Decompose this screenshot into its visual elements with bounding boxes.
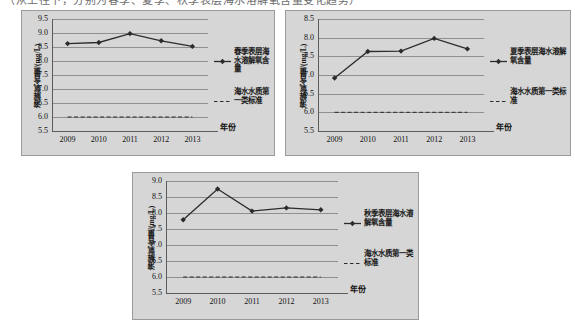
legend-marker-glyph [490, 98, 507, 105]
summer-chart-legend-dashed-icon [490, 91, 507, 98]
summer-chart-legend-line-icon [490, 51, 507, 58]
summer-chart-data-line [335, 38, 468, 78]
legend-marker-glyph [344, 260, 361, 267]
legend-marker-glyph [214, 58, 231, 65]
autumn-chart-panel: 溶解氧含量/(mg/L)9.08.58.07.57.06.56.05.52009… [132, 172, 419, 320]
spring-chart-data-marker [190, 44, 195, 49]
spring-chart-data-marker [127, 31, 132, 36]
cut-off-caption-strip: （从上往下，分别为春季、夏季、秋季表层海水溶解氧含量变化趋势） [0, 0, 575, 9]
autumn-chart-legend-label: 海水水质第一类标准 [364, 250, 416, 267]
autumn-chart-data-marker [284, 205, 289, 210]
summer-chart-data-marker [465, 46, 470, 51]
legend-marker-glyph [344, 220, 361, 227]
summer-chart-legend-item: 夏季表层海水溶解氧含量 [490, 48, 568, 70]
summer-chart-panel: 溶解氧含量/(mg/L)8.58.07.57.06.56.05.52009201… [285, 10, 571, 156]
autumn-chart-legend-label: 秋季表层海水溶解氧含量 [364, 210, 416, 227]
spring-chart-data-marker [96, 40, 101, 45]
spring-chart-legend-label: 海水水质第一类标准 [234, 88, 272, 105]
autumn-chart-legend-item: 海水水质第一类标准 [344, 250, 416, 272]
spring-chart-legend-line-icon [214, 51, 231, 58]
autumn-chart-legend: 秋季表层海水溶解氧含量海水水质第一类标准 [344, 181, 416, 293]
spring-chart-plot: 溶解氧含量/(mg/L)9.59.08.58.07.57.06.56.05.52… [22, 11, 274, 155]
summer-chart-legend-item: 海水水质第一类标准 [490, 88, 568, 110]
spring-chart-data-marker [159, 38, 164, 43]
legend-marker-glyph [214, 98, 231, 105]
spring-chart-legend-dashed-icon [214, 91, 231, 98]
summer-chart-data-marker [398, 48, 403, 53]
summer-chart-legend-label: 海水水质第一类标准 [510, 88, 568, 105]
spring-chart-legend-item: 春季表层海水溶解氧含量 [214, 48, 272, 70]
legend-marker-glyph [490, 58, 507, 65]
summer-chart-legend-label: 夏季表层海水溶解氧含量 [510, 48, 568, 65]
spring-chart-legend-item: 海水水质第一类标准 [214, 88, 272, 110]
spring-chart-legend-label: 春季表层海水溶解氧含量 [234, 48, 272, 74]
autumn-chart-legend-dashed-icon [344, 253, 361, 260]
spring-chart-data-marker [65, 41, 70, 46]
cut-off-caption: （从上往下，分别为春季、夏季、秋季表层海水溶解氧含量变化趋势） [4, 0, 361, 7]
autumn-chart-data-marker [318, 207, 323, 212]
autumn-chart-data-line [183, 189, 321, 220]
autumn-chart-legend-line-icon [344, 213, 361, 220]
summer-chart-legend: 夏季表层海水溶解氧含量海水水质第一类标准 [490, 19, 568, 131]
spring-chart-panel: 溶解氧含量/(mg/L)9.59.08.58.07.57.06.56.05.52… [21, 10, 275, 156]
spring-chart-legend: 春季表层海水溶解氧含量海水水质第一类标准 [214, 19, 272, 131]
autumn-chart-plot: 溶解氧含量/(mg/L)9.08.58.07.57.06.56.05.52009… [133, 173, 418, 319]
summer-chart-plot: 溶解氧含量/(mg/L)8.58.07.57.06.56.05.52009201… [286, 11, 570, 155]
summer-chart-data-marker [432, 36, 437, 41]
autumn-chart-legend-item: 秋季表层海水溶解氧含量 [344, 210, 416, 232]
